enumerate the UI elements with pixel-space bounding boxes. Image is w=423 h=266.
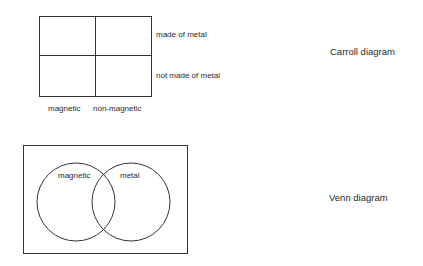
- carroll-column-label-magnetic: magnetic: [48, 104, 80, 113]
- carroll-grid: [40, 17, 152, 97]
- venn-label-magnetic: magnetic: [58, 171, 90, 180]
- carroll-diagram-title: Carroll diagram: [330, 46, 395, 57]
- venn-label-metal: metal: [120, 171, 140, 180]
- carroll-row-label-not-metal: not made of metal: [156, 71, 220, 80]
- diagram-canvas: [0, 0, 423, 266]
- venn-diagram-title: Venn diagram: [329, 192, 388, 203]
- venn-universal-set-frame: [24, 146, 188, 254]
- venn-diagram: [24, 146, 188, 254]
- carroll-column-label-non-magnetic: non-magnetic: [93, 104, 141, 113]
- carroll-row-label-metal: made of metal: [156, 30, 207, 39]
